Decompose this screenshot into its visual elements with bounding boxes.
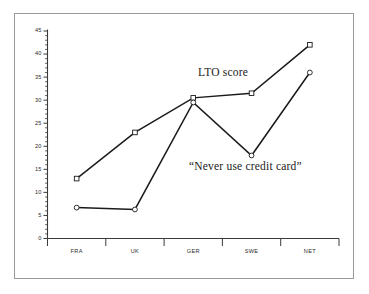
chart-figure: 051015202530354045 FRAUKGERSWENET LTO sc… bbox=[0, 0, 369, 294]
x-tick-label: NET bbox=[290, 248, 330, 254]
x-tick-label: FRA bbox=[57, 248, 97, 254]
y-tick-label: 15 bbox=[28, 166, 42, 172]
y-tick-label: 45 bbox=[28, 27, 42, 33]
x-tick-label: SWE bbox=[232, 248, 272, 254]
y-tick-label: 20 bbox=[28, 143, 42, 149]
y-tick-label: 5 bbox=[28, 212, 42, 218]
annotation-never-use-credit-card: “Never use credit card” bbox=[189, 160, 302, 172]
axes bbox=[44, 30, 340, 247]
y-tick-label: 10 bbox=[28, 189, 42, 195]
x-tick-label: GER bbox=[173, 248, 213, 254]
y-tick-label: 30 bbox=[28, 97, 42, 103]
data-series bbox=[74, 43, 312, 212]
y-tick-label: 40 bbox=[28, 50, 42, 56]
x-tick-label: UK bbox=[115, 248, 155, 254]
y-tick-label: 35 bbox=[28, 74, 42, 80]
y-tick-label: 25 bbox=[28, 120, 42, 126]
y-tick-label: 0 bbox=[28, 235, 42, 241]
annotation-lto-score: LTO score bbox=[198, 66, 248, 78]
